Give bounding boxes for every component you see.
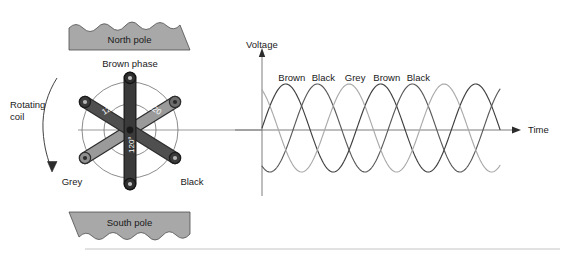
peak-label-black-4: Black — [407, 72, 430, 83]
grey-arm-terminal-top-dot — [173, 100, 177, 104]
brown-arm-terminal-bottom-dot — [128, 182, 132, 186]
time-axis-label: Time — [528, 124, 549, 135]
north-pole-label: North pole — [108, 34, 152, 45]
three-phase-alternator-diagram: North pole South pole Rotating coil — [0, 0, 566, 256]
coil-circles — [78, 82, 262, 178]
grey-phase-label: Grey — [62, 176, 83, 187]
rotation-arrow-curve — [43, 78, 57, 170]
angle-label-bottom: 120° — [127, 136, 136, 153]
peak-label-black-1: Black — [312, 72, 335, 83]
grey-arm-terminal-bottom-dot — [83, 156, 87, 160]
waveform-peak-labels: BrownBlackGreyBrownBlack — [278, 72, 430, 83]
south-pole-label: South pole — [107, 217, 152, 228]
rotating-coil-annotation: Rotating coil — [10, 78, 57, 172]
coil-center-hub — [127, 127, 134, 134]
black-phase-label: Black — [180, 176, 203, 187]
rotation-arrow-head — [48, 162, 58, 173]
peak-label-grey-2: Grey — [345, 72, 366, 83]
peak-label-brown-0: Brown — [278, 72, 305, 83]
black-arm-terminal-bottom-dot — [173, 156, 177, 160]
time-axis-arrowhead — [512, 127, 521, 134]
brown-arm-terminal-top-dot — [128, 76, 132, 80]
figure-canvas: North pole South pole Rotating coil — [0, 0, 566, 256]
rotating-coil-label-line1: Rotating — [10, 99, 45, 110]
brown-phase-label: Brown phase — [102, 58, 157, 69]
voltage-axis-label: Voltage — [246, 39, 278, 50]
wave-brown — [262, 84, 500, 172]
rotating-coil-label-line2: coil — [10, 111, 24, 122]
black-arm-terminal-top-dot — [83, 100, 87, 104]
north-pole-block: North pole — [69, 22, 190, 50]
peak-label-brown-3: Brown — [373, 72, 400, 83]
south-pole-block: South pole — [69, 212, 190, 240]
waveform-curves — [262, 84, 500, 172]
